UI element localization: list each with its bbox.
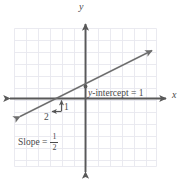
y-axis-label: y <box>79 2 83 12</box>
graph-figure: y x y-intercept = 1 1 2 Slope = 1 2 <box>0 0 179 182</box>
run-label: 2 <box>44 113 49 123</box>
y-intercept-point <box>84 85 88 89</box>
slope-fraction-numerator: 1 <box>50 133 58 142</box>
y-intercept-label: y-intercept = 1 <box>88 89 143 99</box>
slope-label: Slope = 1 2 <box>18 133 58 152</box>
y-intercept-label-text: -intercept = 1 <box>92 88 143 98</box>
slope-fraction: 1 2 <box>50 133 58 152</box>
rise-label: 1 <box>64 103 69 113</box>
slope-label-text: Slope = <box>18 138 47 148</box>
x-axis-label: x <box>172 90 176 100</box>
slope-fraction-denominator: 2 <box>50 143 58 152</box>
